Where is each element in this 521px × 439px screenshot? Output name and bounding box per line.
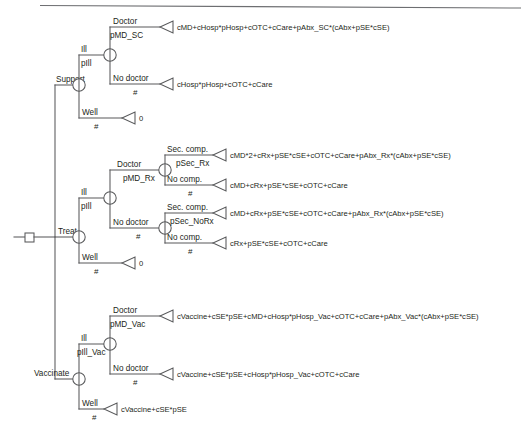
vaccinate-pillvac-prob: pIll_Vac [77,348,106,357]
support-well-payoff: 0 [139,114,143,123]
support-nodoctor-label: No doctor [113,74,149,83]
treat-pill-prob: pIll [81,202,92,211]
vaccinate-nodoctor-label: No doctor [113,364,149,373]
support-nodoctor-terminal[interactable] [160,78,173,90]
treat-doctor-seccomp-payoff: cMD*2+cRx+pSE*cSE+cOTC+cCare+pAbx_Rx*(cA… [230,151,451,160]
support-nodoctor-payoff: cHosp*pHosp+cOTC+cCare [177,80,272,89]
treat-doctor-seccomp-label: Sec. comp. [167,145,208,154]
treat-well-payoff: 0 [139,259,143,268]
vaccinate-nodoctor-payoff: cVaccine+cSE*pSE+cHosp*pHosp_Vac+cOTC+cC… [177,370,359,379]
support-well-label: Well [82,108,98,117]
treat-doctor-seccomp-terminal[interactable] [213,149,226,161]
support-doctor-payoff: cMD+cHosp*pHosp+cOTC+cCare+pAbx_SC*(cAbx… [177,23,390,32]
decision-tree-canvas: Support Ill pIll Doctor pMD_SC cMD+cHosp… [0,0,521,439]
vaccinate-ill-label: Ill [81,334,87,343]
treat-well-label: Well [82,253,98,262]
treat-nodoctor-nocomp-label: No comp. [167,233,202,242]
root-decision-node[interactable] [25,233,34,242]
vaccinate-well-prob: # [92,413,97,422]
treat-nodoctor-nocomp-terminal[interactable] [213,237,226,249]
support-pmdsc-prob: pMD_SC [110,31,143,40]
vaccinate-nodoctor-prob: # [133,378,138,387]
vaccinate-pmdvac-prob: pMD_Vac [110,320,145,329]
top-rule [40,6,521,9]
vaccinate-doctor-payoff: cVaccine+cSE*pSE+cMD+cHosp*pHosp_Vac+cOT… [177,312,479,321]
treat-doctor-nocomp-terminal[interactable] [213,179,226,191]
vaccinate-well-payoff: cVaccine+cSE*pSE [121,405,187,414]
treat-psecnorx-prob: pSec_NoRx [170,217,214,226]
support-doctor-label: Doctor [113,17,137,26]
treat-ill-label: Ill [81,188,87,197]
support-ill-label: Ill [81,45,87,54]
treat-doctor-nocomp-payoff: cMD+cRx+pSE*cSE+cOTC+cCare [230,181,348,190]
support-doctor-terminal[interactable] [160,21,173,33]
treat-doctor-label: Doctor [117,160,141,169]
treat-nodoctor-label: No doctor [113,218,149,227]
treat-psecrx-prob: pSec_Rx [176,159,209,168]
support-well-terminal[interactable] [122,112,135,124]
treat-nodoctor-seccomp-label: Sec. comp. [167,203,208,212]
treat-well-terminal[interactable] [122,257,135,269]
treat-well-prob: # [94,267,99,276]
treat-pmdrx-prob: pMD_Rx [123,174,155,183]
treat-nodoctor-nocomp-prob: # [188,247,193,256]
treat-doctor-nocomp-prob: # [188,189,193,198]
treat-nodoctor-seccomp-payoff: cMD+cRx+pSE*cSE+cOTC+cCare+pAbx_Rx*(cAbx… [230,209,444,218]
treat-nodoctor-prob: # [136,232,141,241]
support-pill-prob: pIll [81,59,92,68]
treat-doctor-nocomp-label: No comp. [167,175,202,184]
support-nodoctor-prob: # [133,88,138,97]
branch-label-vaccinate: Vaccinate [34,369,70,378]
decision-tree-svg: Support Ill pIll Doctor pMD_SC cMD+cHosp… [0,0,521,439]
treat-nodoctor-seccomp-terminal[interactable] [213,207,226,219]
vaccinate-well-label: Well [82,399,98,408]
vaccinate-doctor-label: Doctor [113,306,137,315]
support-well-prob: # [94,122,99,131]
vaccinate-nodoctor-terminal[interactable] [160,368,173,380]
vaccinate-well-terminal[interactable] [104,403,117,415]
vaccinate-doctor-terminal[interactable] [160,310,173,322]
treat-nodoctor-nocomp-payoff: cRx+pSE*cSE+cOTC+cCare [230,239,328,248]
